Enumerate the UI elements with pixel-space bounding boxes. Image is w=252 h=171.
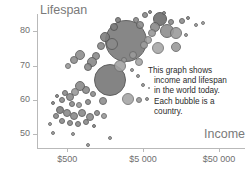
bubble-country — [108, 136, 112, 140]
bubble-country — [83, 119, 89, 125]
annotation-line: income and lifespan — [148, 76, 248, 86]
bubble-country — [84, 63, 92, 71]
bubble-country — [51, 131, 55, 135]
bubble-country — [94, 110, 100, 116]
bubble-country — [184, 33, 188, 37]
bubble-country — [65, 63, 71, 69]
annotation-line: country. — [148, 107, 248, 117]
bubble-country — [141, 83, 145, 87]
bubble-country — [51, 101, 55, 105]
bubble-country — [114, 60, 126, 72]
annotation-line: Each bubble is a — [148, 97, 248, 107]
bubble-country — [142, 12, 148, 18]
bubble-country — [136, 97, 142, 103]
bubble-country — [101, 113, 107, 119]
bubble-country — [71, 132, 75, 136]
bubble-country — [122, 93, 134, 105]
bubble-country — [168, 19, 174, 25]
bubble-country — [67, 120, 73, 126]
bubble-country — [97, 42, 105, 50]
bubble-country — [133, 17, 139, 23]
bubble-country — [78, 109, 86, 117]
annotation-line: in the world today. — [148, 86, 248, 96]
bubble-country — [130, 68, 134, 72]
bubble-country — [100, 32, 110, 42]
bubble-country — [140, 41, 148, 49]
bubble-country — [115, 17, 121, 23]
bubble-country — [53, 113, 59, 119]
bubble-country — [194, 23, 198, 27]
bubble-country — [171, 42, 181, 52]
bubble-country — [170, 27, 182, 39]
bubble-country — [75, 121, 81, 127]
bubble-country — [90, 91, 96, 97]
bubble-country — [69, 101, 75, 107]
bubble-country — [86, 143, 90, 147]
bubble-country — [59, 118, 65, 124]
bubble-country — [136, 74, 140, 78]
chart-annotation: This graph showsincome and lifespanin th… — [148, 66, 248, 117]
bubble-country — [186, 16, 190, 20]
bubble-country — [59, 97, 65, 103]
bubble-country — [179, 18, 185, 24]
bubble-country — [62, 90, 68, 96]
bubble-country — [152, 42, 164, 54]
bubble-country — [99, 97, 107, 105]
bubble-country — [201, 21, 205, 25]
annotation-line: This graph shows — [148, 66, 248, 76]
bubble-country — [85, 99, 91, 105]
bubble-country — [70, 112, 78, 120]
bubble-chart: Lifespan Income 50607080$500$5 000$50 00… — [0, 0, 252, 171]
bubble-country — [70, 56, 78, 64]
bubble-country — [135, 58, 143, 66]
bubble-country — [110, 23, 118, 31]
bubble-country — [162, 11, 166, 15]
bubble-country — [48, 122, 52, 126]
bubble-country — [76, 102, 82, 108]
bubble-country — [148, 10, 152, 14]
bubble-country — [55, 94, 59, 98]
bubble-country — [92, 124, 96, 128]
